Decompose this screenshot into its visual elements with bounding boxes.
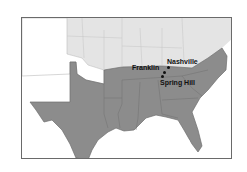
nashville-marker (167, 66, 170, 69)
us-south-map (22, 18, 232, 159)
spring-hill-label: Spring Hill (160, 79, 195, 86)
spring-hill-marker (161, 75, 164, 78)
franklin-label: Franklin (132, 64, 159, 71)
franklin-marker (163, 71, 166, 74)
nashville-label: Nashville (167, 58, 198, 65)
lake-okeechobee (186, 139, 189, 142)
map-frame: Nashville Franklin Spring Hill (21, 17, 232, 159)
